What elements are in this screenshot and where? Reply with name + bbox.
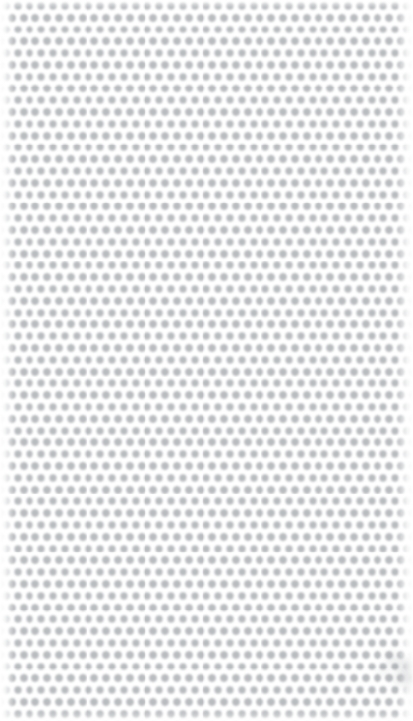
polka-dot-field [0,0,413,721]
dot-pattern-canvas [0,0,413,721]
